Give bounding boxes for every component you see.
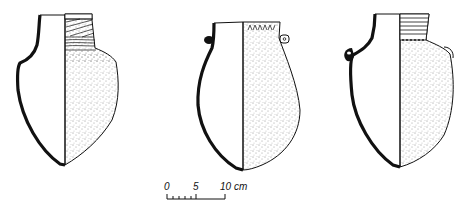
vessel-3 xyxy=(344,14,453,167)
scale-label-10cm: 10 cm xyxy=(220,181,247,192)
vessel-2-right-lug xyxy=(280,35,289,43)
vessel-1-section xyxy=(18,15,65,165)
vessel-2-section xyxy=(198,22,243,170)
vessel-2 xyxy=(198,22,300,170)
vessel-3-left-lug xyxy=(344,48,354,61)
vessel-1 xyxy=(18,14,119,165)
vessel-2-exterior xyxy=(243,22,300,170)
vessel-3-section xyxy=(351,14,400,167)
scale-bar xyxy=(167,194,225,199)
scale-label-5: 5 xyxy=(193,181,199,192)
pottery-figure xyxy=(0,0,467,209)
vessel-2-left-lug xyxy=(204,36,214,44)
scale-label-0: 0 xyxy=(164,181,170,192)
